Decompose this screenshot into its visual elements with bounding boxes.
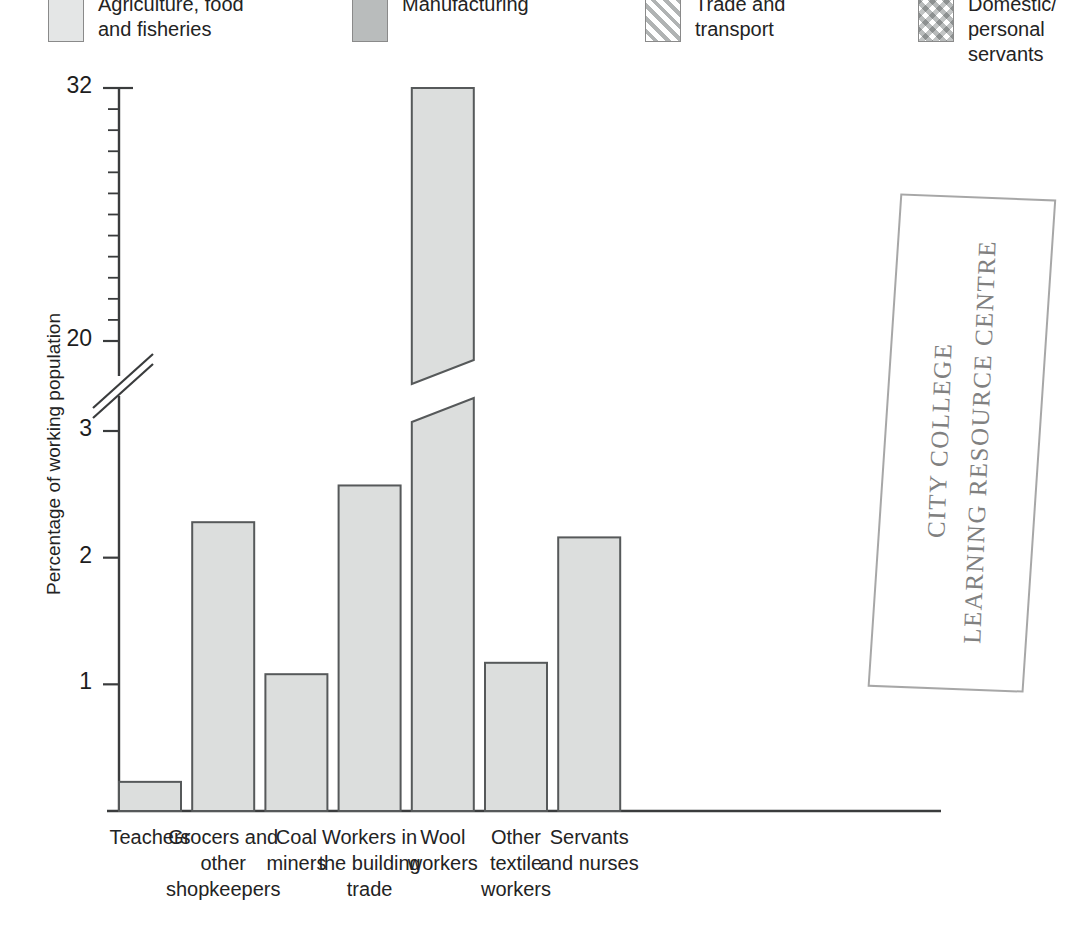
y-tick-label-3: 3 xyxy=(46,415,92,442)
bar-lower-segment xyxy=(412,398,474,811)
x-category-label-7: Servants and nurses xyxy=(523,824,655,876)
figure-container: Agriculture, food and fisheriesManufactu… xyxy=(0,0,1081,944)
bar-3[interactable] xyxy=(265,674,327,811)
axis-break-slash-1 xyxy=(93,354,153,408)
bar-rect xyxy=(119,782,181,811)
bar-5[interactable] xyxy=(412,88,474,811)
bar-rect xyxy=(339,485,401,811)
bar-7[interactable] xyxy=(558,537,620,811)
axis-break-slash-2 xyxy=(93,364,153,418)
y-tick-label-1: 1 xyxy=(46,668,92,695)
bar-1[interactable] xyxy=(119,782,181,811)
bar-rect xyxy=(558,537,620,811)
bar-4[interactable] xyxy=(339,485,401,811)
bar-2[interactable] xyxy=(192,522,254,811)
y-tick-label-2: 2 xyxy=(46,542,92,569)
bar-upper-segment xyxy=(412,88,474,384)
bar-rect xyxy=(192,522,254,811)
bar-rect xyxy=(265,674,327,811)
bar-6[interactable] xyxy=(485,663,547,811)
y-axis-tick-labels: 3220321 xyxy=(42,0,92,944)
bar-rect xyxy=(485,663,547,811)
y-tick-label-20: 20 xyxy=(46,325,92,352)
library-stamp-watermark: CITY COLLEGE LEARNING RESOURCE CENTRE xyxy=(875,193,1046,688)
y-tick-label-32: 32 xyxy=(46,72,92,99)
